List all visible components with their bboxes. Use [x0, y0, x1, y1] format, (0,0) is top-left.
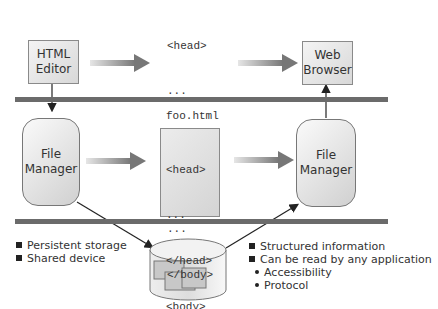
list-item: Shared device — [16, 252, 127, 265]
code-line: </head> — [166, 254, 219, 269]
file-manager-label: File — [25, 147, 78, 162]
web-browser-label: Web — [303, 48, 352, 63]
format-properties-list: Structured information Can be read by an… — [249, 240, 432, 292]
file-manager-left: File Manager — [22, 118, 80, 206]
list-item-text: Can be read by any application — [260, 253, 432, 266]
list-item: Can be read by any application — [249, 253, 432, 266]
file-manager-right: File Manager — [296, 119, 356, 207]
list-item: Structured information — [249, 240, 432, 253]
file-name: foo.html — [166, 109, 219, 124]
html-editor-label: HTML — [36, 47, 72, 62]
list-item-text: Accessibility — [264, 266, 332, 279]
file-contents-box: <head> ... </head> <body> ... </body> — [160, 128, 220, 217]
list-item-text: Shared device — [27, 252, 105, 265]
web-browser-box: Web Browser — [302, 41, 353, 85]
storage-properties-list: Persistent storage Shared device — [16, 239, 127, 265]
list-item-text: Structured information — [260, 240, 385, 253]
web-browser-label: Browser — [303, 63, 352, 78]
code-line: ... — [167, 84, 213, 99]
arrow-code-to-browser — [238, 54, 298, 72]
bullet-square-icon — [16, 242, 22, 248]
list-item-text: Persistent storage — [27, 239, 127, 252]
html-editor-box: HTML Editor — [28, 40, 79, 84]
arrow-fm-to-file — [86, 152, 146, 170]
bullet-square-icon — [249, 256, 255, 262]
code-line: ... — [166, 208, 219, 223]
sub-list-item: Accessibility — [249, 266, 432, 279]
bullet-square-icon — [16, 255, 22, 261]
html-editor-label: Editor — [36, 62, 72, 77]
file-manager-label: Manager — [25, 162, 78, 177]
arrow-editor-to-code — [90, 54, 150, 72]
code-line: <head> — [167, 39, 213, 54]
bullet-dot-icon — [255, 283, 259, 287]
bullet-square-icon — [249, 243, 255, 249]
file-manager-label: Manager — [300, 163, 353, 178]
file-manager-label: File — [300, 148, 353, 163]
list-item-text: Protocol — [264, 279, 308, 292]
bullet-dot-icon — [255, 270, 259, 274]
sub-list-item: Protocol — [249, 279, 432, 292]
arrow-file-to-fm — [234, 151, 294, 169]
code-line: <body> — [166, 300, 219, 309]
code-line: <head> — [166, 163, 219, 178]
list-item: Persistent storage — [16, 239, 127, 252]
